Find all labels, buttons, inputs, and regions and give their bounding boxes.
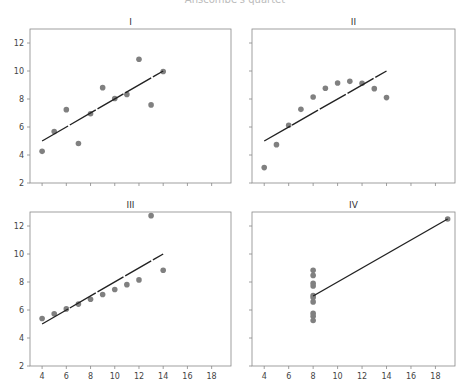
axes-frame	[30, 29, 231, 183]
axes-iii: III468101214161824681012	[14, 200, 231, 381]
data-point	[39, 316, 45, 322]
data-point	[310, 94, 316, 100]
data-point	[298, 107, 304, 113]
x-tick-label: 10	[333, 372, 343, 381]
axes-frame	[252, 29, 455, 183]
x-tick-label: 4	[262, 372, 267, 381]
data-point	[100, 292, 106, 298]
data-point	[64, 107, 70, 113]
x-tick-label: 12	[357, 372, 367, 381]
data-point	[112, 287, 118, 293]
x-tick-label: 14	[158, 372, 168, 381]
axes-title: IV	[349, 200, 359, 210]
data-point	[310, 280, 316, 286]
axes-frame	[252, 212, 455, 366]
y-tick-label: 12	[14, 222, 24, 231]
x-tick-label: 4	[40, 372, 45, 381]
axes-title: III	[127, 200, 135, 210]
y-tick-label: 4	[19, 151, 24, 160]
data-point	[261, 165, 267, 171]
axes-i: I24681012	[14, 17, 231, 188]
axes-ii: II	[249, 17, 455, 186]
y-tick-label: 2	[19, 179, 24, 188]
data-point	[76, 141, 82, 147]
x-tick-label: 16	[406, 372, 416, 381]
x-tick-label: 6	[286, 372, 291, 381]
data-point	[323, 85, 329, 91]
data-point	[100, 85, 106, 91]
data-point	[384, 95, 390, 101]
data-point	[310, 267, 316, 273]
x-tick-label: 18	[207, 372, 217, 381]
data-point	[310, 313, 316, 319]
y-tick-label: 12	[14, 39, 24, 48]
axes-title: I	[129, 17, 132, 27]
x-tick-label: 8	[88, 372, 93, 381]
axes-iv: IV4681012141618	[249, 200, 455, 381]
data-point	[371, 86, 377, 92]
y-tick-label: 2	[19, 362, 24, 371]
x-tick-label: 18	[430, 372, 440, 381]
data-point	[347, 79, 353, 85]
y-tick-label: 8	[19, 278, 24, 287]
y-tick-label: 6	[19, 306, 24, 315]
y-tick-label: 4	[19, 334, 24, 343]
x-tick-label: 6	[64, 372, 69, 381]
data-point	[160, 267, 166, 273]
x-tick-label: 10	[110, 372, 120, 381]
y-tick-label: 10	[14, 67, 24, 76]
data-point	[136, 277, 142, 283]
data-point	[136, 56, 142, 62]
data-point	[39, 149, 45, 155]
y-tick-label: 10	[14, 250, 24, 259]
data-point	[274, 142, 280, 148]
axes-frame	[30, 212, 231, 366]
data-point	[310, 273, 316, 279]
x-tick-label: 16	[182, 372, 192, 381]
x-tick-label: 14	[381, 372, 391, 381]
data-point	[124, 282, 130, 288]
data-point	[148, 213, 154, 219]
data-point	[335, 80, 341, 86]
data-point	[148, 102, 154, 108]
y-tick-label: 8	[19, 95, 24, 104]
x-tick-label: 12	[134, 372, 144, 381]
anscombe-figure: I24681012 II III468101214161824681012 IV…	[0, 0, 470, 390]
axes-title: II	[351, 17, 356, 27]
y-tick-label: 6	[19, 123, 24, 132]
x-tick-label: 8	[311, 372, 316, 381]
